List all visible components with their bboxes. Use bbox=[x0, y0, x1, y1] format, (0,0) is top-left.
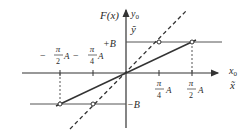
marker-pos-half bbox=[190, 40, 194, 44]
y-axis-label-fx: F(x) bbox=[99, 9, 119, 22]
svg-text:π: π bbox=[157, 78, 162, 88]
svg-text:A: A bbox=[97, 51, 104, 61]
y-axis-label-ytilde: ỹ bbox=[130, 23, 137, 35]
svg-text:2: 2 bbox=[56, 57, 60, 66]
reference-line bbox=[70, 11, 186, 129]
tick-label-neg-quarter: − π 4 A bbox=[73, 44, 104, 66]
svg-text:2: 2 bbox=[189, 91, 193, 100]
svg-text:π: π bbox=[189, 78, 194, 88]
svg-text:π: π bbox=[90, 44, 95, 54]
svg-text:A: A bbox=[165, 85, 172, 95]
minus-b-label: −B bbox=[127, 99, 140, 110]
svg-text:π: π bbox=[56, 44, 61, 54]
svg-text:A: A bbox=[197, 85, 204, 95]
plus-b-label: +B bbox=[103, 38, 116, 49]
x-axis-label-x0: x0 bbox=[228, 65, 237, 78]
svg-text:4: 4 bbox=[157, 91, 161, 100]
svg-text:A: A bbox=[63, 51, 70, 61]
tick-label-pos-half: π 2 A bbox=[187, 78, 204, 100]
svg-text:4: 4 bbox=[90, 57, 94, 66]
marker-neg-quarter bbox=[91, 102, 95, 106]
y-axis-label-y0: y0 bbox=[130, 8, 139, 21]
marker-pos-quarter bbox=[157, 40, 161, 44]
transfer-diagram: F(x) y0 ỹ x0 x̃ +B −B − π 2 A − π 4 A π … bbox=[0, 0, 252, 135]
marker-neg-half bbox=[58, 102, 62, 106]
svg-text:−: − bbox=[73, 50, 79, 61]
x-axis-label-xtilde: x̃ bbox=[229, 79, 236, 91]
tick-label-pos-quarter: π 4 A bbox=[155, 78, 172, 100]
svg-text:−: − bbox=[40, 50, 46, 61]
tick-label-neg-half: − π 2 A bbox=[40, 44, 70, 66]
